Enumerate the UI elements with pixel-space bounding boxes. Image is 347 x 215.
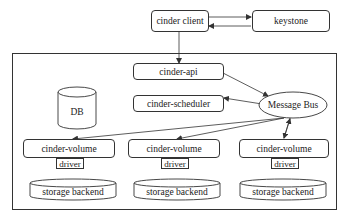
cinder-api-node: cinder-api	[133, 63, 224, 80]
cinder-api-label: cinder-api	[159, 67, 197, 77]
storage-backend-node-3: storage backend	[240, 185, 326, 198]
storage-backend-node-1: storage backend	[30, 185, 116, 198]
storage-backend-label: storage backend	[42, 187, 103, 197]
storage-backend-label: storage backend	[252, 187, 313, 197]
cinder-volume-node-3: cinder-volume	[239, 139, 329, 158]
cinder-volume-label: cinder-volume	[146, 144, 201, 154]
cinder-client-label: cinder client	[156, 16, 203, 26]
driver-label: driver	[274, 159, 296, 169]
driver-label: driver	[59, 159, 81, 169]
message-bus-node: Message Bus	[259, 92, 327, 118]
cinder-architecture-diagram: cinder client keystone cinder-api cinder…	[0, 0, 347, 215]
db-node: DB	[58, 100, 96, 124]
keystone-node: keystone	[252, 10, 330, 32]
cinder-volume-node-2: cinder-volume	[128, 139, 220, 158]
driver-label: driver	[164, 159, 186, 169]
message-bus-label: Message Bus	[268, 100, 318, 110]
cinder-volume-label: cinder-volume	[256, 144, 311, 154]
cinder-scheduler-label: cinder-scheduler	[147, 99, 210, 109]
cinder-scheduler-node: cinder-scheduler	[133, 95, 224, 112]
driver-node-2: driver	[161, 158, 189, 169]
cinder-client-node: cinder client	[151, 10, 209, 32]
cinder-volume-label: cinder-volume	[41, 144, 96, 154]
storage-backend-label: storage backend	[146, 187, 207, 197]
storage-backend-node-2: storage backend	[134, 185, 220, 198]
db-label: DB	[70, 107, 83, 117]
driver-node-3: driver	[271, 158, 299, 169]
keystone-label: keystone	[274, 16, 308, 26]
driver-node-1: driver	[56, 158, 84, 169]
cinder-volume-node-1: cinder-volume	[23, 139, 115, 158]
